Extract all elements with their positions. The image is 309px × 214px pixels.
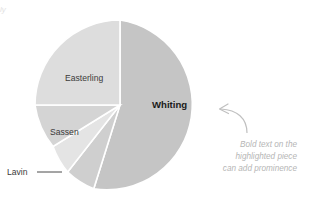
annotation-line-2: highlighted piece <box>236 152 298 161</box>
curved-arrow-left-icon <box>220 104 248 133</box>
pie-chart-figure: Whiting Easterling Sassen Lavin Bold tex… <box>0 0 309 214</box>
slice-label-lavin: Lavin <box>7 167 28 177</box>
corner-note: ly <box>0 5 7 14</box>
annotation-line-3: can add prominence <box>223 164 298 173</box>
pie-chart-svg: Whiting Easterling Sassen Lavin Bold tex… <box>0 0 309 214</box>
pie-slice-easterling[interactable] <box>35 20 120 105</box>
slice-label-sassen: Sassen <box>50 127 79 137</box>
slice-label-whiting: Whiting <box>152 99 187 110</box>
annotation-line-1: Bold text on the <box>240 140 297 149</box>
slice-label-easterling: Easterling <box>65 73 103 83</box>
